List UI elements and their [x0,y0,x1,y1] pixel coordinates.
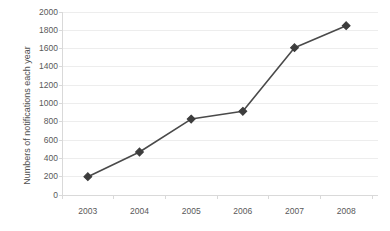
line-chart: Numbers of notifications each year 02004… [0,0,390,231]
data-point-marker [84,173,92,181]
axis-lines [59,12,378,199]
gridlines [62,12,378,195]
data-point-markers [84,22,350,181]
data-point-marker [342,22,350,30]
data-point-marker [136,148,144,156]
plot-area [0,0,390,231]
